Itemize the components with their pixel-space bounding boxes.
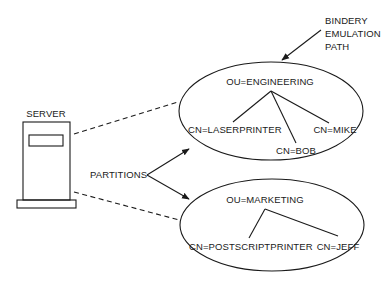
engineering-partition: OU=ENGINEERING CN=LASERPRINTER CN=BOB CN… [179,62,363,160]
bindery-arrow [282,30,321,60]
node-bob: CN=BOB [276,145,316,156]
partitions-label: PARTITIONS [90,169,147,180]
edge-marketing-jeff [265,209,338,236]
server-label: SERVER [26,108,66,119]
bindery-label-line2: EMULATION [325,28,381,39]
server-drive-slot [29,135,63,146]
marketing-root: OU=MARKETING [226,194,303,205]
edge-engineering-mike [271,91,329,123]
node-postscriptprinter: CN=POSTSCRIPTPRINTER [189,241,313,252]
partitions-arrow-engineering [147,149,189,175]
dashed-link-engineering [74,102,178,134]
partitions-arrow-marketing [147,175,189,199]
node-laserprinter: CN=LASERPRINTER [188,124,282,135]
bindery-label-line1: BINDERY [325,15,368,26]
server-base [17,200,76,208]
marketing-partition: OU=MARKETING CN=POSTSCRIPTPRINTER CN=JEF… [180,179,364,271]
node-mike: CN=MIKE [313,124,356,135]
node-jeff: CN=JEFF [317,241,360,252]
edge-marketing-postscriptprinter [249,209,265,238]
bindery-label-line3: PATH [325,41,349,52]
partition-diagram: SERVER PARTITIONS BINDERY EMULATION PATH… [0,0,392,302]
dashed-link-marketing [74,192,179,220]
server-icon [17,122,76,208]
marketing-ellipse [180,179,364,271]
edge-engineering-laserprinter [233,91,271,122]
server-cabinet [23,122,70,200]
engineering-root: OU=ENGINEERING [226,76,314,87]
edge-engineering-bob [271,91,296,143]
